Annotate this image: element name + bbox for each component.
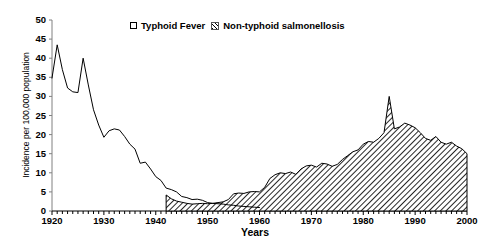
x-tick-label: 1960 — [240, 216, 280, 226]
x-tick-label: 2000 — [447, 216, 481, 226]
x-tick-label: 1940 — [136, 216, 176, 226]
legend-entry-non-typhoid-salmonellosis: Non-typhoid salmonellosis — [211, 20, 344, 31]
x-tick-label: 1990 — [395, 216, 435, 226]
x-tick-label: 1950 — [188, 216, 228, 226]
x-axis-title: Years — [215, 226, 295, 238]
open-square-marker-icon — [130, 22, 137, 29]
x-axis-tick-labels: 192019301940195019601970198019902000 — [0, 0, 481, 250]
chart-container: Incidence per 100,000 population 0510152… — [0, 0, 481, 250]
chart-legend: Typhoid Fever Non-typhoid salmonellosis — [130, 20, 345, 31]
legend-entry-typhoid-fever: Typhoid Fever — [130, 20, 205, 31]
legend-label-non-typhoid-salmonellosis: Non-typhoid salmonellosis — [223, 20, 344, 31]
x-tick-label: 1930 — [84, 216, 124, 226]
x-tick-label: 1920 — [32, 216, 72, 226]
x-tick-label: 1980 — [343, 216, 383, 226]
legend-label-typhoid-fever: Typhoid Fever — [141, 20, 205, 31]
hatch-swatch-marker-icon — [211, 22, 219, 30]
x-tick-label: 1970 — [291, 216, 331, 226]
